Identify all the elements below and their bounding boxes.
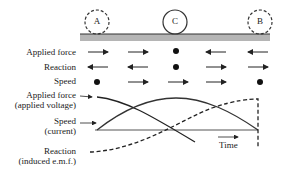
row-label-reaction: Reaction — [44, 62, 76, 72]
position-c-label: C — [165, 16, 185, 26]
reaction-line1: Reaction — [19, 146, 76, 156]
row-speed-symbols — [94, 79, 263, 85]
reaction-line2: (induced e.m.f.) — [19, 156, 76, 166]
row-label-speed: Speed — [54, 76, 76, 86]
graph-label-reaction: Reaction (induced e.m.f.) — [19, 146, 76, 166]
position-b-label: B — [250, 16, 270, 26]
speed-line1: Speed — [45, 116, 76, 126]
time-axis-label: Time — [219, 140, 238, 150]
graph-label-applied-force: Applied force (applied voltage) — [15, 90, 76, 110]
rail — [80, 34, 270, 41]
applied-force-line2: (applied voltage) — [15, 100, 76, 110]
speed-line2: (current) — [45, 126, 76, 136]
row-reaction-symbols — [88, 64, 268, 70]
row-applied-force-symbols — [88, 48, 268, 54]
graph-label-speed: Speed (current) — [45, 116, 76, 136]
row-label-applied-force: Applied force — [26, 47, 76, 57]
applied-force-line1: Applied force — [15, 90, 76, 100]
position-a-label: A — [87, 16, 107, 26]
